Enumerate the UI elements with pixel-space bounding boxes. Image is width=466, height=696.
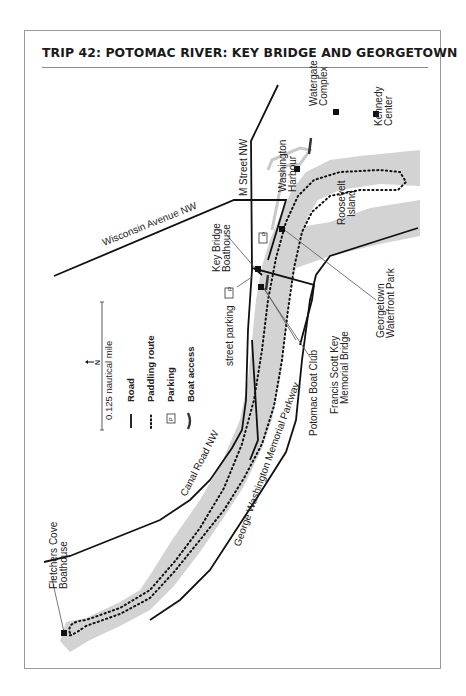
svg-text:KennedyCenter: KennedyCenter bbox=[373, 87, 394, 126]
north-arrow-icon: N bbox=[85, 360, 101, 365]
key-bridge-boathouse-marker bbox=[255, 266, 261, 272]
georgetown-waterfront-marker bbox=[279, 226, 285, 232]
map-canvas: P P M Street NW Wisconsin Avenue NW Cana… bbox=[0, 0, 466, 696]
potomac-boat-club-marker bbox=[258, 284, 264, 290]
label-m-street: M Street NW bbox=[238, 138, 249, 196]
svg-text:P: P bbox=[168, 417, 174, 421]
svg-text:Francis Scott KeyMemorial Brid: Francis Scott KeyMemorial Bridge bbox=[329, 331, 350, 414]
svg-text:WatergateComplex: WatergateComplex bbox=[308, 60, 329, 106]
svg-text:street parking: street parking bbox=[224, 305, 235, 366]
river-water bbox=[60, 150, 420, 652]
svg-text:Key BridgeBoathouse: Key BridgeBoathouse bbox=[211, 223, 232, 272]
svg-text:Potomac Boat Club: Potomac Boat Club bbox=[308, 349, 319, 436]
svg-text:Fletchers CoveBoathouse: Fletchers CoveBoathouse bbox=[48, 521, 69, 589]
svg-text:GeorgetownWaterfront Park: GeorgetownWaterfront Park bbox=[375, 267, 396, 338]
label-wisconsin: Wisconsin Avenue NW bbox=[101, 200, 199, 248]
legend: N 0.125 nautical mile Road Paddling rout… bbox=[85, 302, 196, 430]
svg-text:P: P bbox=[227, 287, 233, 291]
svg-text:N: N bbox=[94, 360, 101, 365]
svg-text:WashingtonHarbour: WashingtonHarbour bbox=[277, 140, 298, 192]
svg-text:Road: Road bbox=[125, 378, 136, 402]
svg-text:P: P bbox=[261, 232, 267, 236]
svg-text:Parking: Parking bbox=[165, 367, 176, 402]
svg-text:Paddling route: Paddling route bbox=[145, 336, 156, 403]
watergate-marker bbox=[333, 109, 339, 115]
svg-text:0.125 nautical mile: 0.125 nautical mile bbox=[103, 341, 114, 420]
fletchers-marker bbox=[61, 630, 67, 636]
svg-text:Boat access: Boat access bbox=[185, 347, 196, 402]
